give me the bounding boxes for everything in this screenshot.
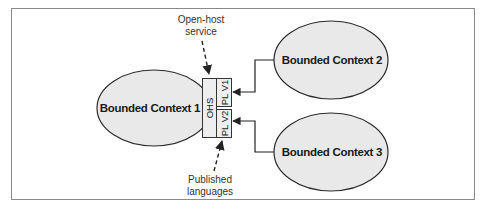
diagram-frame [12,9,475,200]
context-label: Bounded Context 2 [282,54,382,66]
annotation-line: service [185,26,217,37]
context-label: Bounded Context 1 [100,102,201,114]
ohs-label: OHS [204,98,215,119]
published-languages-annotation: Published languages [187,174,233,197]
published-language-v1-label: PL V1 [219,80,230,106]
annotation-line: Published [188,174,232,185]
context-map-diagram: Bounded Context 1 Bounded Context 2 Boun… [0,0,482,213]
context-label: Bounded Context 3 [282,146,382,158]
bounded-context-1: Bounded Context 1 [97,70,211,146]
published-language-v2-label: PL V2 [219,111,230,137]
bounded-context-2: Bounded Context 2 [274,21,388,99]
annotation-line: languages [187,186,233,197]
bounded-context-3: Bounded Context 3 [274,113,388,191]
annotation-line: Open-host [178,14,225,25]
